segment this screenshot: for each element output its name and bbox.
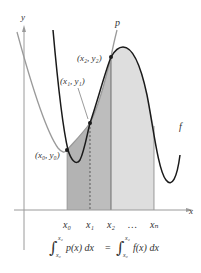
equals-sign: =	[105, 242, 111, 253]
x1-y1-leader-line	[78, 88, 88, 119]
curve-p-label: p	[114, 17, 120, 28]
shaded-area-x2-to-xn	[111, 47, 154, 210]
rhs-integrand: f(x) dx	[133, 242, 159, 254]
x-axis-label: x	[188, 206, 193, 216]
curve-f-label: f	[179, 121, 183, 132]
point-x1-y1-label: (x₁, y₁)	[60, 76, 85, 86]
tick-xn: xₙ	[149, 219, 159, 230]
lhs-lower-limit: x₀	[55, 252, 61, 258]
y-axis-label: y	[20, 12, 25, 22]
integral-formula: ∫ x₂ x₀ p(x) dx = ∫ x₂ x₀ f(x) dx	[49, 235, 159, 258]
rhs-lower-limit: x₀	[122, 252, 128, 258]
point-x2-y2	[109, 55, 113, 59]
point-x0-y0-label: (x₀, y₀)	[35, 150, 60, 160]
y-axis-arrow-icon	[22, 25, 26, 32]
rhs-upper-limit: x₂	[124, 235, 130, 241]
tick-x2: x₂	[106, 219, 115, 230]
tick-x1: x₁	[85, 219, 94, 230]
tick-x0: x₀	[62, 219, 71, 230]
lhs-integrand: p(x) dx	[65, 242, 95, 254]
lhs-upper-limit: x₂	[57, 235, 63, 241]
tick-ellipsis: …	[128, 219, 137, 230]
point-x2-y2-label: (x₂, y₂)	[77, 53, 102, 63]
point-x1-y1	[88, 121, 92, 125]
point-x0-y0	[65, 148, 69, 152]
diagram-figure: y x p f (x₂, y₂) (x₁, y₁) (x₀, y₀) x₀ x₁…	[0, 0, 201, 273]
